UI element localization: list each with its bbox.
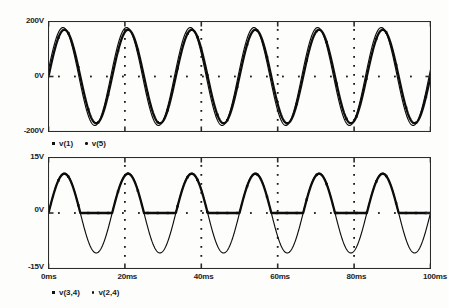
top-plot-canvas [48,21,431,132]
legend-item-v5[interactable]: v(5) [85,139,106,148]
top-plot-panel [48,21,431,132]
square-marker-icon [52,291,55,294]
bottom-plot-ylabel-max: 15V [4,152,44,161]
legend-label-v24: v(2,4) [98,288,119,297]
bottom-plot-xtick-label-5: 100ms [423,272,447,281]
bottom-plot-panel [48,157,431,269]
bottom-plot-xtick-label-4: 80ms [347,272,367,281]
bottom-plot-canvas [48,157,431,269]
dot-marker-icon [92,291,95,294]
bottom-plot-traces [49,173,431,253]
bottom-plot-xtick-label-1: 20ms [117,272,137,281]
top-plot-ylabel-zero: 0V [4,71,44,80]
legend-item-v1[interactable]: v(1) [52,139,73,148]
bottom-plot-ylabel-min: -15V [4,262,44,271]
legend-label-v5: v(5) [92,139,106,148]
legend-item-v34[interactable]: v(3,4) [52,288,80,297]
square-marker-icon [52,142,55,145]
legend-item-v24[interactable]: v(2,4) [92,288,119,297]
spice-plot-figure: 200V 0V -200V v(1) v(5) 15V 0V -15V 0ms2… [0,0,449,308]
top-plot-ylabel-max: 200V [4,16,44,25]
top-plot-traces [49,28,431,126]
bottom-plot-xtick-label-3: 60ms [270,272,290,281]
bottom-plot-xtick-label-0: 0ms [41,272,56,281]
bottom-plot-ylabel-zero: 0V [4,205,44,214]
bottom-plot-xtick-label-2: 40ms [194,272,214,281]
legend-label-v34: v(3,4) [59,288,80,297]
top-plot-legend: v(1) v(5) [52,139,106,148]
legend-label-v1: v(1) [59,139,73,148]
top-plot-ylabel-min: -200V [4,126,44,135]
bottom-plot-legend: v(3,4) v(2,4) [52,288,119,297]
dot-marker-icon [85,142,88,145]
